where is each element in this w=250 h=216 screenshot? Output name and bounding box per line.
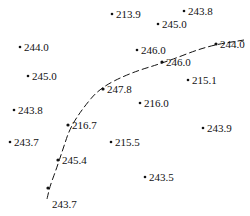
point-marker-icon bbox=[110, 141, 113, 144]
curve-point-label: 244.0 bbox=[220, 38, 245, 50]
point-marker-icon bbox=[214, 42, 217, 45]
point-label: 215.5 bbox=[115, 136, 140, 148]
curve-point-label: 243.7 bbox=[52, 198, 77, 210]
curve-point-label: 216.7 bbox=[72, 119, 97, 131]
point-marker-icon bbox=[160, 60, 163, 63]
point-marker-icon bbox=[157, 23, 160, 26]
point-label: 215.1 bbox=[192, 74, 217, 86]
point-label: 245.0 bbox=[162, 18, 187, 30]
point-marker-icon bbox=[9, 141, 12, 144]
point-marker-icon bbox=[27, 75, 30, 78]
point-label: 245.0 bbox=[32, 70, 57, 82]
point-label: 244.0 bbox=[24, 41, 49, 53]
point-label: 216.0 bbox=[144, 97, 169, 109]
point-marker-icon bbox=[46, 186, 49, 189]
point-marker-icon bbox=[183, 10, 186, 13]
point-marker-icon bbox=[136, 49, 139, 52]
point-marker-icon bbox=[111, 13, 114, 16]
point-label: 213.9 bbox=[116, 8, 141, 20]
point-label: 243.5 bbox=[149, 171, 174, 183]
point-label: 243.7 bbox=[14, 136, 39, 148]
curve-point-label: 247.8 bbox=[107, 83, 132, 95]
point-marker-icon bbox=[19, 46, 22, 49]
point-marker-icon bbox=[202, 127, 205, 130]
point-marker-icon bbox=[56, 158, 59, 161]
curve-point-label: 245.4 bbox=[62, 154, 87, 166]
point-marker-icon bbox=[13, 109, 16, 112]
point-marker-icon bbox=[101, 87, 104, 90]
point-label: 243.8 bbox=[188, 5, 213, 17]
elevation-diagram: 213.9243.8245.0244.0246.0245.0215.1216.0… bbox=[0, 0, 250, 216]
point-marker-icon bbox=[187, 79, 190, 82]
point-marker-icon bbox=[139, 102, 142, 105]
point-label: 243.8 bbox=[18, 104, 43, 116]
curve-point-label: 246.0 bbox=[166, 56, 191, 68]
point-marker-icon bbox=[144, 176, 147, 179]
point-label: 246.0 bbox=[141, 44, 166, 56]
point-label: 243.9 bbox=[207, 122, 232, 134]
point-marker-icon bbox=[66, 123, 69, 126]
